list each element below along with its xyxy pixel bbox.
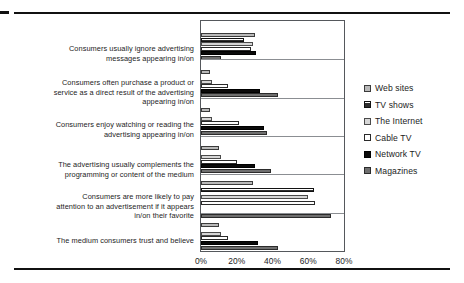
legend-item[interactable]: Magazines (364, 163, 462, 180)
legend-swatch-the-internet-icon (364, 118, 371, 125)
category-label-line: advertising appearing in/on (8, 130, 194, 140)
x-tick-label: 20% (228, 256, 245, 266)
category-separator (201, 136, 344, 137)
category-label-line: service as a direct result of the advert… (8, 88, 194, 98)
bar-tv-shows (201, 188, 314, 192)
x-tick-label: 0% (195, 256, 207, 266)
category-label: Consumers enjoy watching or reading thea… (8, 120, 194, 139)
legend-label: The Internet (375, 116, 423, 126)
bar-the-internet (201, 195, 308, 199)
x-tick-label: 40% (264, 256, 281, 266)
legend-swatch-web-sites-icon (364, 85, 371, 92)
bar-web-sites (201, 146, 219, 150)
bar-chart: Consumers usually ignore advertisingmess… (0, 14, 464, 264)
category-label: Consumers often purchase a product orser… (8, 78, 194, 107)
bar-magazines (201, 169, 271, 173)
bar-tv-shows (201, 38, 244, 42)
bar-the-internet (201, 80, 212, 84)
bar-network-tv (201, 126, 264, 130)
category-label: Consumers are more likely to payattentio… (8, 192, 194, 221)
bar-cable-tv (201, 236, 228, 240)
bar-magazines (201, 131, 267, 135)
category-label-line: Consumers often purchase a product or (8, 78, 194, 88)
x-tick-label: 60% (300, 256, 317, 266)
bar-network-tv (201, 89, 260, 93)
bar-network-tv (201, 51, 256, 55)
legend-label: Web sites (375, 83, 413, 93)
bar-cable-tv (201, 201, 315, 205)
bar-the-internet (201, 42, 253, 46)
category-label-line: attention to an advertisement if it appe… (8, 202, 194, 212)
bar-group (201, 136, 344, 174)
legend-item[interactable]: The Internet (364, 113, 462, 130)
bar-web-sites (201, 223, 219, 227)
bar-group (201, 98, 344, 136)
category-separator (201, 98, 344, 99)
legend-swatch-cable-tv-icon (364, 134, 371, 141)
legend-item[interactable]: TV shows (364, 97, 462, 114)
bar-magazines (201, 246, 278, 250)
category-label-line: Consumers usually ignore advertising (8, 44, 194, 54)
bar-cable-tv (201, 84, 228, 88)
bar-the-internet (201, 117, 212, 121)
category-label-line: messages appearing in/on (8, 54, 194, 64)
category-label-line: Consumers enjoy watching or reading the (8, 120, 194, 130)
legend-item[interactable]: Cable TV (364, 130, 462, 147)
category-axis-labels: Consumers usually ignore advertisingmess… (8, 20, 194, 252)
plot-inner (201, 21, 344, 251)
category-separator (201, 59, 344, 60)
legend-swatch-network-tv-icon (364, 151, 371, 158)
legend-item[interactable]: Web sites (364, 80, 462, 97)
category-label-line: The advertising usually complements the (8, 160, 194, 170)
x-axis-tick-labels: 0%20%40%60%80% (200, 256, 380, 272)
bar-the-internet (201, 232, 221, 236)
legend-label: Cable TV (375, 133, 411, 143)
bar-cable-tv (201, 121, 239, 125)
bar-web-sites (201, 108, 210, 112)
legend-swatch-tv-shows-icon (364, 101, 371, 108)
category-label: The medium consumers trust and believe (8, 236, 194, 246)
chart-legend: Web sitesTV showsThe InternetCable TVNet… (364, 80, 462, 179)
legend-label: Network TV (375, 149, 421, 159)
bar-network-tv (201, 164, 255, 168)
category-label-line: The medium consumers trust and believe (8, 236, 194, 246)
bar-group (201, 59, 344, 97)
bar-group (201, 213, 344, 251)
bar-cable-tv (201, 160, 237, 164)
bar-web-sites (201, 181, 253, 185)
bar-web-sites (201, 33, 255, 37)
category-separator (201, 174, 344, 175)
legend-swatch-magazines-icon (364, 167, 371, 174)
category-label: The advertising usually complements thep… (8, 160, 194, 179)
page-root: Consumers usually ignore advertisingmess… (0, 0, 464, 283)
bar-group (201, 174, 344, 212)
category-label-line: appearing in/on (8, 97, 194, 107)
bar-web-sites (201, 70, 210, 74)
bar-network-tv (201, 241, 258, 245)
category-label-line: programming or content of the medium (8, 170, 194, 180)
bar-the-internet (201, 155, 221, 159)
legend-item[interactable]: Network TV (364, 146, 462, 163)
category-label: Consumers usually ignore advertisingmess… (8, 44, 194, 63)
category-label-line: in/on their favorite (8, 211, 194, 221)
legend-label: Magazines (375, 166, 417, 176)
bar-group (201, 21, 344, 59)
plot-area (200, 20, 345, 252)
bar-cable-tv (201, 47, 251, 51)
x-tick-label: 80% (336, 256, 353, 266)
category-label-line: Consumers are more likely to pay (8, 192, 194, 202)
legend-label: TV shows (375, 100, 414, 110)
category-separator (201, 213, 344, 214)
